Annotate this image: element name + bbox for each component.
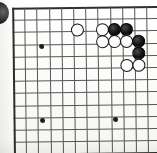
hoshi-lower-center — [113, 117, 118, 122]
white-approach-stone — [71, 23, 84, 36]
white-stone-r4c4 — [132, 59, 145, 72]
stone-layer — [0, 0, 156, 1]
go-diagram-screenshot — [0, 0, 157, 153]
hoshi-upper-left — [39, 44, 44, 49]
board-grid — [0, 0, 156, 1]
hoshi-layer — [0, 0, 156, 1]
hoshi-lower-left — [40, 118, 45, 123]
go-board — [0, 0, 157, 153]
